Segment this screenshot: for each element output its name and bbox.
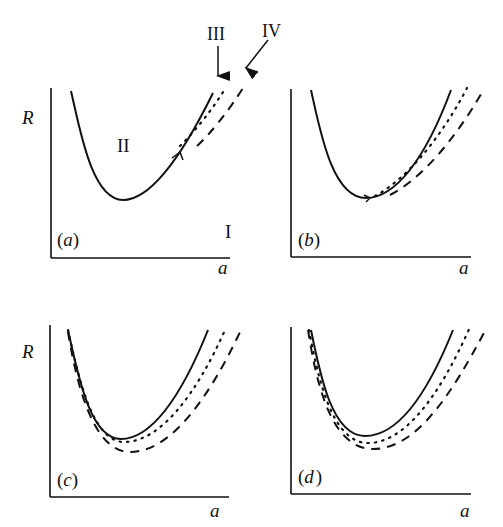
curve-label-iii: III <box>207 25 225 43</box>
panel-label-a: (a) <box>57 230 79 249</box>
arrow-iv <box>246 40 268 68</box>
panel-a <box>51 40 268 258</box>
dashed-curve-iv <box>197 88 243 146</box>
solid-curve <box>311 90 451 198</box>
solid-curve <box>311 330 453 436</box>
figure-canvas <box>0 0 503 527</box>
region-label-ii: II <box>117 136 130 155</box>
paren-close: ) <box>314 229 320 250</box>
panel-label-b: (b) <box>298 230 320 249</box>
dotted-curve-iii <box>180 89 225 146</box>
curve-label-iv: IV <box>262 22 281 40</box>
dotted-curve-iii <box>375 88 467 196</box>
panel-letter: a <box>63 229 73 250</box>
solid-curve <box>71 91 213 200</box>
dashed-curve-iv <box>390 89 484 195</box>
x-axis-label: a <box>218 258 228 277</box>
paren-close: ) <box>316 466 322 487</box>
dotted-curve-iii <box>309 327 470 443</box>
panel-letter: c <box>63 469 71 490</box>
paren-close: ) <box>73 229 79 250</box>
panel-letter: d <box>304 466 314 487</box>
dashed-curve-iv <box>308 327 487 449</box>
panel-label-d: (d) <box>298 467 322 486</box>
x-axis-label: a <box>460 501 470 520</box>
panel-label-c: (c) <box>57 470 78 489</box>
dashed-curve-iv <box>68 330 241 452</box>
paren-close: ) <box>72 469 78 490</box>
x-axis-label: a <box>459 258 469 277</box>
region-label-i: I <box>225 222 231 241</box>
x-axis-label: a <box>210 501 220 520</box>
panel-c <box>50 325 241 497</box>
solid-curve <box>68 330 208 439</box>
y-axis-label: R <box>22 342 34 361</box>
y-axis-label: R <box>22 108 34 127</box>
panel-letter: b <box>304 229 314 250</box>
